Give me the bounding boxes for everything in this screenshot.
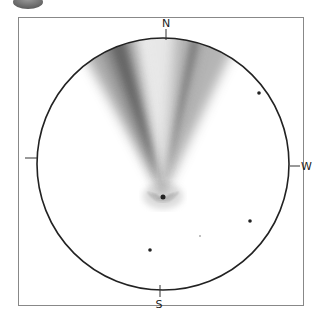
west-label: W [301,160,312,173]
badge-icon [13,0,43,9]
star [248,219,252,223]
north-label: N [162,17,170,30]
south-label: S [156,298,163,311]
star [148,248,152,252]
sky-chart: N S W [0,0,332,323]
star [199,235,200,236]
comet-head [143,183,183,209]
star [257,91,261,95]
